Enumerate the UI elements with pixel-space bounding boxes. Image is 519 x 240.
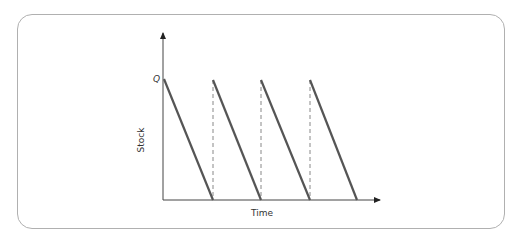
y-axis-label: Stock bbox=[136, 127, 146, 153]
stock-time-diagram: Q Stock Time bbox=[0, 0, 519, 240]
q-tick-label: Q bbox=[153, 74, 160, 84]
x-axis-label: Time bbox=[250, 208, 273, 218]
